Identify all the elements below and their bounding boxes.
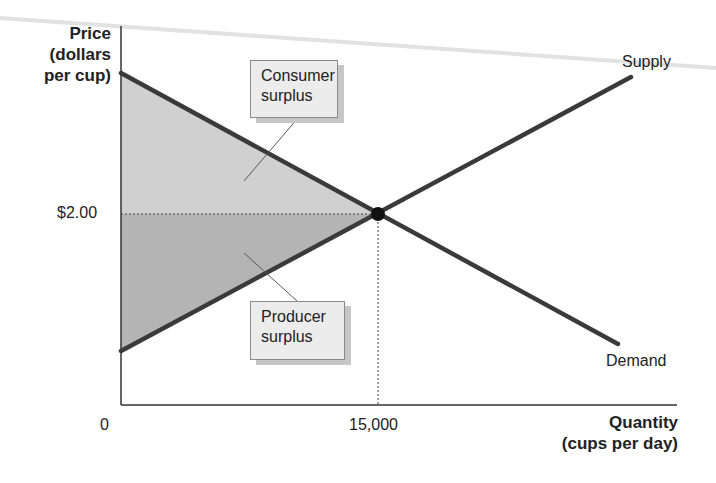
y-axis-title-line3: per cup) [0, 65, 111, 86]
producer-box-line2: surplus [261, 327, 336, 347]
equilibrium-point [371, 207, 385, 221]
consumer-box-line1: Consumer [261, 66, 329, 86]
producer-box-line1: Producer [261, 307, 336, 327]
x-tick-zero: 0 [100, 416, 109, 434]
y-axis-title-line1: Price [0, 23, 111, 44]
x-axis-title-line1: Quantity [562, 412, 678, 433]
consumer-box-line2: surplus [261, 86, 329, 106]
producer-surplus-box: Producer surplus [250, 301, 345, 360]
x-axis-title: Quantity (cups per day) [562, 412, 678, 454]
consumer-surplus-box: Consumer surplus [250, 60, 338, 118]
y-axis-title-line2: (dollars [0, 44, 111, 65]
supply-label: Supply [622, 53, 671, 71]
demand-label: Demand [606, 352, 666, 370]
y-axis-title: Price (dollars per cup) [0, 23, 111, 86]
y-tick-price: $2.00 [57, 204, 97, 222]
x-axis-title-line2: (cups per day) [562, 433, 678, 454]
x-tick-quantity: 15,000 [349, 416, 398, 434]
